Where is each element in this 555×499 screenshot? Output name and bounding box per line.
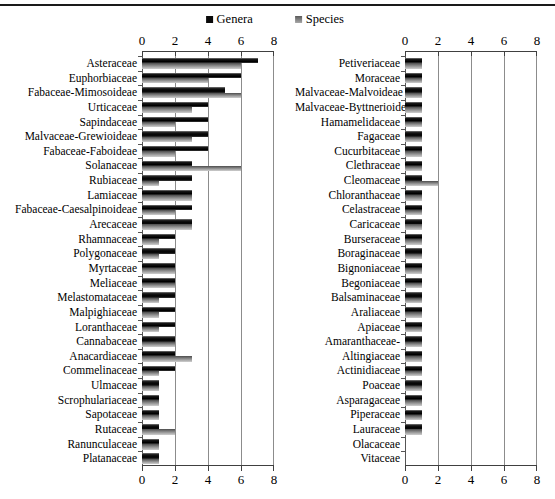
legend-label-species: Species (306, 12, 344, 27)
gridline-6 (241, 56, 242, 465)
bar-species-fabaceae-caesalpinoideae (142, 210, 175, 215)
category-label-sapindaceae: Sapindaceae (8, 115, 142, 130)
bar-species-urticaceae (142, 107, 192, 112)
category-label-malvaceae-malvoideae: Malvaceae-Malvoideae (295, 85, 405, 100)
bar-species-melastomataceae (142, 298, 159, 303)
axis-tick-label-6: 6 (238, 473, 245, 486)
axis-tickmark-0 (405, 466, 406, 471)
category-label-celastraceae: Celastraceae (295, 202, 405, 217)
chart-page: Genera Species 02468 AsteraceaeEuphorbia… (0, 0, 555, 499)
category-label-poaceae: Poaceae (295, 378, 405, 393)
bar-species-cleomaceae (405, 181, 438, 186)
left-chart-category-labels: AsteraceaeEuphorbiaceaeFabaceae-Mimosoid… (8, 56, 142, 466)
axis-tick-label-4: 4 (205, 34, 212, 47)
bar-species-myrtaceae (142, 268, 175, 273)
bar-species-fagaceae (405, 137, 422, 142)
bar-species-rubiaceae (142, 181, 159, 186)
category-label-loranthaceae: Loranthaceae (8, 320, 142, 335)
bar-species-begoniaceae (405, 283, 422, 288)
legend-item-species: Species (295, 12, 344, 27)
bar-species-sapotaceae (142, 415, 159, 420)
category-label-meliaceae: Meliaceae (8, 276, 142, 291)
bar-species-malvaceae-malvoideae (405, 93, 422, 98)
bar-species-ranunculaceae (142, 444, 159, 449)
right-chart-top-axis: 02468 (405, 34, 537, 56)
left-chart-plot-area (142, 56, 274, 466)
axis-tickmark-8 (536, 466, 537, 471)
bar-species-platanaceae (142, 459, 159, 464)
bar-species-fabaceae-mimosoideae (142, 93, 241, 98)
bar-species-bignoniaceae (405, 268, 422, 273)
axis-tick-label-8: 8 (271, 34, 278, 47)
left-chart-bottom-axis: 02468 (142, 466, 274, 496)
bar-species-altingiaceae (405, 356, 422, 361)
category-label-amaranthaceae-: Amaranthaceae- (295, 334, 405, 349)
category-label-lauraceae: Lauraceae (295, 422, 405, 437)
category-label-platanaceae: Platanaceae (8, 451, 142, 466)
axis-tickmark-4 (471, 466, 472, 471)
bar-species-cannabaceae (142, 342, 175, 347)
category-label-solanaceae: Solanaceae (8, 158, 142, 173)
bar-species-apiaceae (405, 327, 422, 332)
gridline-8 (273, 56, 274, 465)
bar-species-asparagaceae (405, 400, 422, 405)
bar-species-malpighiaceae (142, 312, 159, 317)
category-label-balsaminaceae: Balsaminaceae (295, 290, 405, 305)
category-label-myrtaceae: Myrtaceae (8, 261, 142, 276)
bar-species-rutaceae (142, 429, 175, 434)
category-label-sapotaceae: Sapotaceae (8, 407, 142, 422)
bar-species-cucurbitaceae (405, 151, 422, 156)
category-label-ranunculaceae: Ranunculaceae (8, 437, 142, 452)
category-label-piperaceae: Piperaceae (295, 407, 405, 422)
category-label-apiaceae: Apiaceae (295, 320, 405, 335)
bar-species-lamiaceae (142, 195, 192, 200)
axis-tick-label-8: 8 (534, 34, 541, 47)
category-label-boraginaceae: Boraginaceae (295, 246, 405, 261)
bar-species-asteraceae (142, 63, 241, 68)
category-label-lamiaceae: Lamiaceae (8, 188, 142, 203)
axis-tickmark-4 (208, 466, 209, 471)
category-label-vitaceae: Vitaceae (295, 451, 405, 466)
species-swatch-icon (295, 16, 302, 23)
category-label-begoniaceae: Begoniaceae (295, 276, 405, 291)
bar-species-actinidiaceae (405, 371, 422, 376)
bar-species-moraceae (405, 78, 422, 83)
category-label-commelinaceae: Commelinaceae (8, 363, 142, 378)
bar-species-araliaceae (405, 312, 422, 317)
bar-species-ulmaceae (142, 386, 159, 391)
bar-species-petiveriaceae (405, 63, 422, 68)
category-label-cannabaceae: Cannabaceae (8, 334, 142, 349)
gridline-4 (471, 56, 472, 465)
right-chart-bottom-axis: 02468 (405, 466, 537, 496)
axis-tick-label-6: 6 (238, 34, 245, 47)
axis-tickmark-6 (241, 466, 242, 471)
category-label-malvaceae-grewioideae: Malvaceae-Grewioideae (8, 129, 142, 144)
category-label-melastomataceae: Melastomataceae (8, 290, 142, 305)
gridline-8 (536, 56, 537, 465)
gridline-6 (504, 56, 505, 465)
bar-species-meliaceae (142, 283, 175, 288)
category-label-ulmaceae: Ulmaceae (8, 378, 142, 393)
category-label-rhamnaceae: Rhamnaceae (8, 232, 142, 247)
gridline-2 (438, 56, 439, 465)
axis-tick-label-0: 0 (139, 473, 146, 486)
bar-species-polygonaceae (142, 254, 159, 259)
axis-tick-label-6: 6 (501, 473, 508, 486)
bar-species-boraginaceae (405, 254, 422, 259)
category-label-fabaceae-caesalpinoideae: Fabaceae-Caesalpinoideae (8, 202, 142, 217)
category-label-actinidiaceae: Actinidiaceae (295, 363, 405, 378)
bar-species-piperaceae (405, 415, 422, 420)
bar-species-caricaceae (405, 224, 422, 229)
bar-species-hamamelidaceae (405, 122, 422, 127)
bar-species-solanaceae (142, 166, 241, 171)
right-chart-category-labels: PetiveriaceaeMoraceaeMalvaceae-Malvoidea… (295, 56, 405, 466)
category-label-chloranthaceae: Chloranthaceae (295, 188, 405, 203)
category-label-rubiaceae: Rubiaceae (8, 173, 142, 188)
bar-species-clethraceae (405, 166, 422, 171)
category-label-arecaceae: Arecaceae (8, 217, 142, 232)
axis-tick-label-0: 0 (139, 34, 146, 47)
right-bar-chart: 02468 PetiveriaceaeMoraceaeMalvaceae-Mal… (295, 34, 537, 496)
axis-tick-label-8: 8 (271, 473, 278, 486)
category-label-fagaceae: Fagaceae (295, 129, 405, 144)
bar-species-fabaceae-faboideae (142, 151, 175, 156)
